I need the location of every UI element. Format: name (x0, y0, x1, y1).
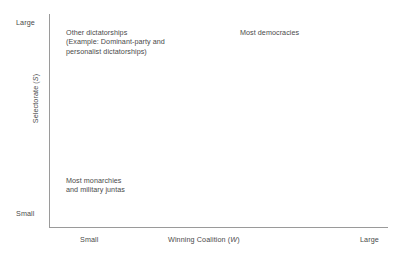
y-axis-title-variable: S (31, 76, 40, 81)
y-axis-title: Selectorate (S) (31, 59, 40, 139)
annotation-other-dictatorships-line-2: (Example: Dominant-party and (66, 37, 165, 46)
x-axis-tick-small: Small (80, 235, 98, 244)
x-axis-line (49, 227, 388, 228)
annotation-other-dictatorships-line-1: Other dictatorships (66, 28, 165, 37)
annotation-most-monarchies: Most monarchies and military juntas (66, 176, 125, 195)
annotation-most-democracies-line-1: Most democracies (240, 28, 299, 37)
selectorate-winning-coalition-chart: Large Small Small Large Selectorate (S) … (0, 0, 403, 257)
y-axis-tick-large: Large (16, 18, 35, 27)
y-axis-tick-small: Small (16, 209, 34, 218)
annotation-most-monarchies-line-2: and military juntas (66, 185, 125, 194)
y-axis-title-prefix: Selectorate ( (31, 81, 40, 123)
annotation-most-democracies: Most democracies (240, 28, 299, 37)
y-axis-line (49, 14, 50, 227)
x-axis-title-suffix: ) (237, 235, 240, 244)
annotation-other-dictatorships-line-3: personalist dictatorships) (66, 47, 165, 56)
x-axis-title: Winning Coalition (W) (168, 235, 240, 244)
x-axis-tick-large: Large (360, 235, 379, 244)
y-axis-title-suffix: ) (31, 74, 40, 77)
annotation-most-monarchies-line-1: Most monarchies (66, 176, 125, 185)
x-axis-title-prefix: Winning Coalition ( (168, 235, 230, 244)
annotation-other-dictatorships: Other dictatorships (Example: Dominant-p… (66, 28, 165, 56)
